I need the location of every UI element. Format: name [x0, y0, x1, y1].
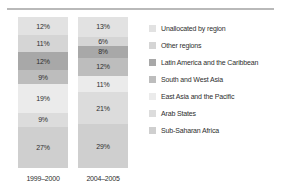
bar-column-1999-2000: 12%11%12%9%19%9%27% 1999–2000	[18, 17, 68, 168]
bar-segment: 29%	[78, 124, 128, 168]
legend-item: Other regions	[149, 37, 281, 54]
legend-swatch-icon	[149, 59, 156, 66]
bar-segment-value: 11%	[37, 40, 50, 47]
legend-swatch-icon	[149, 76, 156, 83]
x-axis-label-2004-2005: 2004–2005	[78, 174, 128, 183]
bar-segment-value: 12%	[36, 58, 49, 65]
legend-swatch-icon	[149, 42, 156, 49]
legend-swatch-icon	[149, 127, 156, 134]
bar-segment-value: 12%	[36, 23, 49, 30]
bar-segment: 21%	[78, 92, 128, 124]
bar-segment-value: 9%	[38, 74, 48, 81]
legend-swatch-icon	[149, 110, 156, 117]
bar-segment: 27%	[18, 127, 68, 168]
plot-area: 12%11%12%9%19%9%27% 1999–2000 13%6%8%12%…	[0, 17, 148, 195]
legend-item: Sub-Saharan Africa	[149, 122, 281, 139]
stacked-bar-chart: 12%11%12%9%19%9%27% 1999–2000 13%6%8%12%…	[0, 0, 281, 195]
bar-stack: 13%6%8%12%11%21%29%	[78, 17, 128, 168]
bar-segment-value: 8%	[98, 48, 108, 55]
bar-segment: 9%	[18, 70, 68, 84]
bar-segment: 19%	[18, 84, 68, 113]
legend-item: East Asia and the Pacific	[149, 88, 281, 105]
bar-column-2004-2005: 13%6%8%12%11%21%29% 2004–2005	[78, 17, 128, 168]
bar-segment: 12%	[18, 52, 68, 70]
legend-item-label: Unallocated by region	[161, 25, 226, 33]
bar-segment-value: 27%	[36, 144, 49, 151]
legend-swatch-icon	[149, 25, 156, 32]
bar-segment: 12%	[78, 58, 128, 76]
legend-item: Latin America and the Caribbean	[149, 54, 281, 71]
legend-swatch-icon	[149, 93, 156, 100]
legend-item-label: Other regions	[161, 42, 201, 50]
bar-segment-value: 11%	[97, 81, 110, 88]
legend-item-label: Latin America and the Caribbean	[161, 59, 258, 67]
bar-segment-value: 19%	[36, 95, 49, 102]
top-divider-rule	[7, 8, 274, 10]
bar-segment-value: 6%	[98, 38, 108, 45]
bar-segment: 8%	[78, 46, 128, 58]
legend-item: Unallocated by region	[149, 20, 281, 37]
legend-item-label: Arab States	[161, 110, 196, 118]
bar-segment: 12%	[18, 17, 68, 35]
bar-segment-value: 12%	[96, 63, 109, 70]
legend-item: Arab States	[149, 105, 281, 122]
bar-stack: 12%11%12%9%19%9%27%	[18, 17, 68, 168]
legend-item-label: Sub-Saharan Africa	[161, 127, 219, 135]
legend-item: South and West Asia	[149, 71, 281, 88]
bar-segment-value: 13%	[96, 23, 109, 30]
bar-segment-value: 21%	[96, 105, 109, 112]
bar-segment-value: 29%	[96, 143, 109, 150]
bar-segment: 11%	[18, 35, 68, 52]
bar-segment: 6%	[78, 37, 128, 46]
bar-segment: 11%	[78, 76, 128, 93]
bar-segment: 9%	[18, 113, 68, 127]
bar-segment: 13%	[78, 17, 128, 37]
x-axis-label-1999-2000: 1999–2000	[18, 174, 68, 183]
chart-legend: Unallocated by regionOther regionsLatin …	[149, 20, 281, 139]
legend-item-label: South and West Asia	[161, 76, 223, 84]
bar-segment-value: 9%	[38, 116, 48, 123]
legend-item-label: East Asia and the Pacific	[161, 93, 234, 101]
